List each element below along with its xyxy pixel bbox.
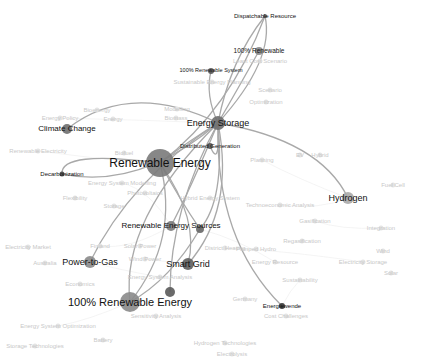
background-node-label: Photovoltaics [127,190,163,196]
background-node-label: Energy System Analysis [128,274,192,280]
node-label-100-renewable-system: 100% Renewable System [180,68,243,74]
background-node-label: Cost Challenges [264,313,308,319]
node-label-dispatchable-resource: Dispatchable Resource [234,13,296,19]
background-node-label: Hybrid [311,152,328,158]
background-node-label: Wind Power [129,256,161,262]
background-node-label: Energy System Optimization [20,323,96,329]
background-node-label: Hydrogen Technologies [194,340,257,346]
background-node-label: Planning [250,157,273,163]
background-node-label: Sustainable Energy Planning [173,79,250,85]
network-graph[interactable] [0,0,421,360]
background-node-label: Energy [103,116,122,122]
background-node-label: Storage Technologies [6,343,64,349]
background-node-label: Optimization [249,99,282,105]
background-node-label: Germany [233,296,258,302]
background-node-label: Gasification [299,218,330,224]
background-node-label: Electricity Market [5,244,51,250]
background-node-label: Energy Policy [42,115,79,121]
background-node-label: Biomass [164,115,187,121]
background-node-label: Bioenergy [83,107,110,113]
background-node-label: Solar Power [124,243,157,249]
background-node-label: Energy Resource [252,259,298,265]
background-node-label: Least Cost Scenario [233,58,287,64]
background-node-label: Scenario [258,87,282,93]
background-node-label: Flexibility [63,195,88,201]
node-label-renewable-energy: Renewable Energy [109,157,210,169]
background-node-label: Sensitivity Analysis [131,313,182,319]
background-node-label: Finland [90,243,110,249]
background-node-label: Electricity Storage [339,259,387,265]
background-node-label: Wind [376,248,390,254]
background-node-label: Modelling [164,106,190,112]
background-node-label: EV [296,152,304,158]
node-label-energy-storage: Energy Storage [187,119,250,128]
background-node-label: Technoeconomic Analysis [246,202,315,208]
background-node-label: Fuel Cell [381,182,405,188]
background-node-label: Sustainability [282,277,317,283]
background-node-label: Solar [384,270,398,276]
background-node-label: Battery [93,337,112,343]
background-node-label: Australia [33,260,56,266]
node-label-100-renewable-energy: 100% Renewable Energy [68,297,192,308]
background-node-label: Pumped Hydro [236,246,276,252]
node-label-distributed-generation: Distributed Generation [180,143,240,149]
node-label-climate-change: Climate Change [38,125,95,133]
background-node-label: Storage [103,203,124,209]
node-label-power-to-gas: Power-to-Gas [62,258,118,267]
background-node-label: Hybrid Energy System [180,195,240,201]
background-node-label: Economics [65,281,94,287]
background-node-label: Renewable Electricity [9,148,66,154]
node-label-100-renewable: 100% Renewable [234,48,285,55]
background-node-label: Regasification [283,238,321,244]
background-node-label: Energy System Modelling [88,180,156,186]
node-label-energiewende: Energiewende [263,303,301,309]
node-label-hydrogen: Hydrogen [328,194,367,203]
node-label-decarbonization: Decarbonization [40,171,83,177]
background-node-label: Electrolysis [217,351,247,357]
background-node-label: Integration [367,225,395,231]
node-label-renewable-energy-sources: Renewable Energy Sources [121,222,220,230]
node-label-smart-grid: Smart Grid [166,260,210,269]
